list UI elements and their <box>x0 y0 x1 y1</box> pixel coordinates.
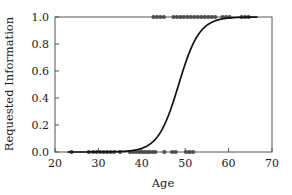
x-axis-label: Age <box>151 176 175 190</box>
y-tick-label: 1.0 <box>32 11 50 24</box>
data-point <box>174 150 178 154</box>
y-tick-label: 0.2 <box>32 119 50 132</box>
data-point <box>153 150 157 154</box>
x-tick-label: 60 <box>222 157 236 170</box>
logistic-fit-curve <box>68 17 257 152</box>
x-axis-tick-labels: 203040506070 <box>48 157 279 170</box>
logistic-regression-chart: 203040506070 0.00.20.40.60.81.0 Age Requ… <box>0 0 292 195</box>
chart-figure: 203040506070 0.00.20.40.60.81.0 Age Requ… <box>0 0 292 195</box>
x-tick-label: 40 <box>135 157 149 170</box>
y-tick-label: 0.6 <box>32 65 50 78</box>
y-axis-ticks <box>55 17 59 152</box>
y-tick-label: 0.8 <box>32 38 50 51</box>
y-axis-tick-labels: 0.00.20.40.60.81.0 <box>32 11 50 159</box>
axes-box <box>55 17 272 152</box>
plot-frame <box>55 17 272 152</box>
data-point <box>162 150 166 154</box>
y-tick-label: 0.4 <box>32 92 50 105</box>
x-tick-label: 70 <box>265 157 279 170</box>
x-tick-label: 20 <box>48 157 62 170</box>
data-point <box>213 15 217 19</box>
x-tick-label: 50 <box>178 157 192 170</box>
x-tick-label: 30 <box>91 157 105 170</box>
data-point <box>162 15 166 19</box>
y-axis-label: Requested Information <box>2 16 16 151</box>
data-point <box>191 150 195 154</box>
y-tick-label: 0.0 <box>32 146 50 159</box>
